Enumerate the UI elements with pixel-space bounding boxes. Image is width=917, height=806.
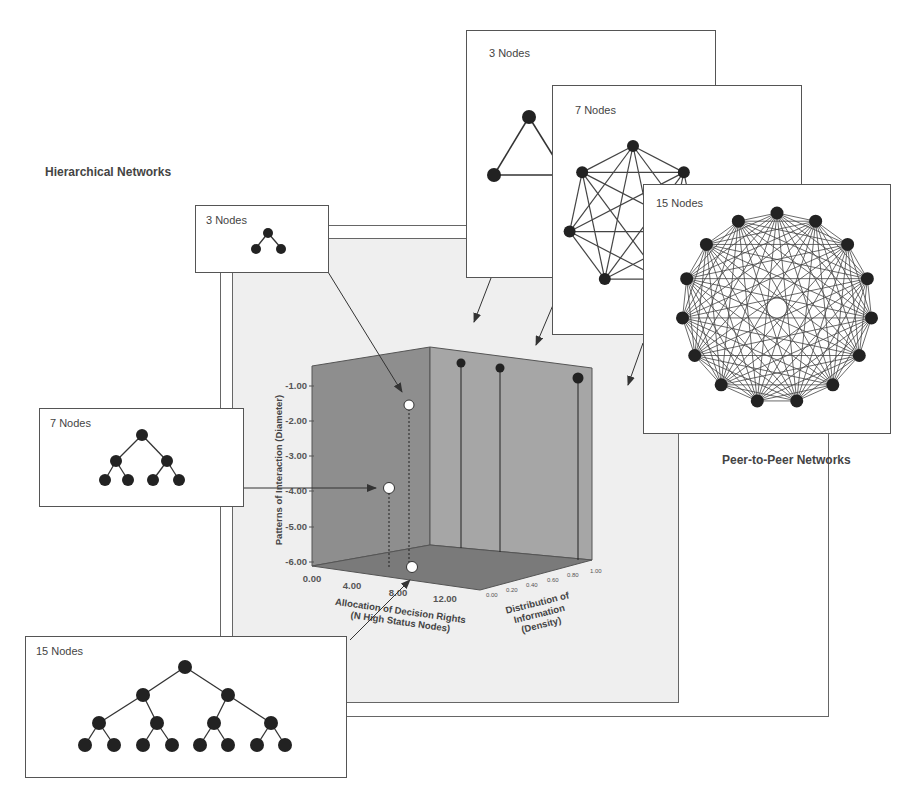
y-axis-title: Patterns of Interaction (Diameter) [273, 395, 284, 545]
graph-node [688, 349, 701, 362]
graph-node [678, 166, 690, 178]
graph-node [676, 311, 689, 324]
z-tick: 0.40 [526, 582, 538, 588]
graph-node [599, 273, 611, 285]
graph-node [809, 215, 822, 228]
graph-node [865, 311, 878, 324]
y-tick: -3.00 [285, 450, 307, 461]
cube-right-wall [430, 347, 592, 560]
p2p-point-15 [573, 373, 584, 384]
y-tick: -2.00 [285, 415, 307, 426]
arrow-p2p-3 [474, 278, 491, 322]
hier-card-3: 3 Nodes [195, 205, 329, 273]
hier-point-15 [407, 562, 418, 573]
graph-node [790, 394, 803, 407]
arrow-p2p-15 [628, 343, 643, 385]
graph-node [715, 378, 728, 391]
tree-15-icon [26, 637, 348, 779]
graph-node [751, 394, 764, 407]
z-tick: 1.00 [590, 568, 602, 574]
hier-point-7 [384, 483, 395, 494]
heading-peer-to-peer: Peer-to-Peer Networks [722, 453, 851, 467]
graph-node [700, 238, 713, 251]
y-tick: -5.00 [285, 521, 307, 532]
x-tick: 4.00 [343, 580, 362, 591]
graph-node [771, 207, 784, 220]
graph-node [853, 349, 866, 362]
p2p-card-15: 15 Nodes [643, 184, 891, 434]
complete-graph-15-icon [644, 185, 892, 435]
heading-hierarchical: Hierarchical Networks [45, 165, 171, 179]
y-axis: -1.00 -2.00 -3.00 -4.00 -5.00 -6.00 Patt… [273, 380, 314, 567]
hier-card-15: 15 Nodes [25, 636, 347, 778]
graph-node [564, 226, 576, 238]
p2p-point-7 [496, 364, 505, 373]
z-tick: 0.00 [486, 592, 498, 598]
hier-point-3 [404, 400, 414, 410]
y-tick: -1.00 [285, 380, 307, 391]
graph-node [627, 140, 639, 152]
p2p-point-3 [457, 359, 466, 368]
x-tick: 0.00 [303, 573, 322, 584]
tree-7-icon [40, 409, 245, 508]
graph-node [841, 238, 854, 251]
graph-node [576, 166, 588, 178]
arrow-p2p-7 [536, 305, 553, 345]
tree-3-icon [196, 206, 330, 274]
cube-left-wall [312, 347, 430, 566]
z-tick: 0.20 [506, 587, 518, 593]
x-tick: 12.00 [433, 593, 457, 604]
graph-node [732, 215, 745, 228]
graph-node [680, 272, 693, 285]
y-tick: -4.00 [285, 485, 307, 496]
z-tick: 0.60 [547, 577, 559, 583]
z-tick: 0.80 [567, 572, 579, 578]
hier-card-7: 7 Nodes [39, 408, 244, 507]
graph-node [861, 272, 874, 285]
graph-node [826, 378, 839, 391]
y-tick: -6.00 [285, 556, 307, 567]
